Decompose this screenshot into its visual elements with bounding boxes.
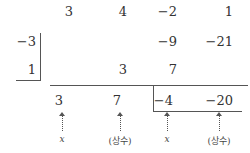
dotted-arrow-line [167, 116, 169, 131]
result-3: −20 [193, 93, 233, 108]
divisor-1: 1 [0, 62, 36, 77]
label-x: x [42, 134, 82, 144]
label-constant: (상수) [199, 134, 239, 147]
dotted-arrow-line [219, 116, 221, 131]
result-1: 7 [81, 93, 121, 108]
coef-0: 3 [33, 4, 73, 19]
divisor-box-bottom-line [16, 80, 41, 81]
dotted-arrow-line [120, 116, 122, 131]
coef-2: −2 [137, 4, 177, 19]
row1-val-3: −21 [193, 34, 233, 49]
divisor-vertical-line [40, 33, 41, 81]
row2-val-1: 3 [87, 62, 127, 77]
result-2: −4 [133, 93, 173, 108]
coef-3: 1 [193, 4, 233, 19]
dotted-arrow-line [62, 116, 64, 131]
sum-line [50, 85, 248, 86]
divisor-neg3: −3 [0, 34, 36, 49]
row2-val-2: 7 [137, 62, 177, 77]
label-constant: (상수) [100, 134, 140, 147]
row1-val-2: −9 [137, 34, 177, 49]
result-0: 3 [23, 93, 63, 108]
coef-1: 4 [87, 4, 127, 19]
label-x: x [147, 134, 187, 144]
